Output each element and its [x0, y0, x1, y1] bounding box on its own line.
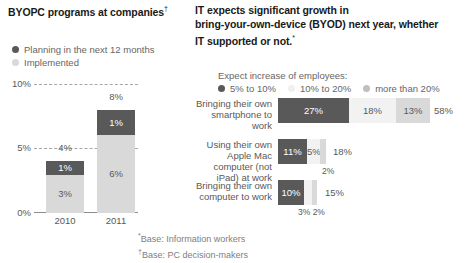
row-label-smartphone-line2: smartphone to work	[211, 109, 272, 131]
x-axis-label-2011: 2011	[97, 215, 135, 226]
right-title-footnote-marker: *	[292, 34, 295, 41]
bar-segment-planning-label-2010: 1%	[46, 163, 84, 173]
byopc-programs-panel: BYOPC programs at companies† Planning in…	[0, 0, 190, 263]
row-label-own-computer-line2: computer to work	[199, 191, 272, 202]
row-label-smartphone-line1: Bringing their own	[196, 98, 272, 109]
bar-segment-implemented-label-2011: 6%	[97, 169, 135, 179]
legend-label-10-to-20: 10% to 20%	[300, 83, 351, 94]
bar-segment-implemented-2010[interactable]: 3%	[46, 175, 84, 213]
row-bar-apple-mac[interactable]: 11%5%	[278, 139, 326, 164]
footnote-2-text: Base: PC decision-makers	[142, 250, 248, 260]
row-label-own-computer: Bringing their own computer to work	[190, 180, 272, 202]
row-segment-more-than-20-own-computer[interactable]	[312, 180, 317, 205]
row-total-smartphone: 58%	[434, 98, 453, 123]
row-label-apple-mac: Using their own Apple Mac computer (not …	[190, 139, 272, 183]
right-chart-title: IT expects significant growth in bring-y…	[195, 4, 463, 48]
bar-segment-implemented-label-2010: 3%	[46, 189, 84, 199]
row-total-apple-mac: 18%	[333, 139, 352, 164]
footnote-2: †Base: PC decision-makers	[138, 246, 248, 262]
row-segment-10-to-20-own-computer[interactable]	[304, 180, 312, 205]
row-segment-5-to-10-apple-mac[interactable]: 11%	[278, 139, 307, 164]
bar-total-label-2011: 8%	[97, 91, 135, 102]
legend-label-5-to-10: 5% to 10%	[230, 83, 276, 94]
y-axis-tick-5: 5%	[5, 142, 31, 153]
y-axis-tick-10: 10%	[5, 78, 31, 89]
bar-segment-planning-label-2011: 1%	[97, 118, 135, 128]
row-bar-smartphone[interactable]: 27%18%13%	[278, 98, 430, 123]
legend-item-5-to-10: 5% to 10%	[218, 83, 276, 94]
bar-segment-planning-2010[interactable]: 1%	[46, 161, 84, 175]
row-label-own-computer-line1: Bringing their own	[196, 180, 272, 191]
legend-item-more-than-20: more than 20%	[363, 83, 439, 94]
row-total-own-computer: 15%	[325, 180, 344, 205]
left-plot-area: 10% 5% 0% 4% 1% 3% 8% 1% 6% 2010 20	[0, 0, 190, 263]
row-segment-more-than-20-smartphone[interactable]: 13%	[396, 98, 430, 123]
row-segment-10-to-20-apple-mac[interactable]: 5%	[307, 139, 320, 164]
legend-item-10-to-20: 10% to 20%	[288, 83, 351, 94]
footnote-1-text: Base: Information workers	[141, 234, 246, 244]
right-title-line2: bring-your-own-device (BYOD) next year, …	[195, 18, 438, 30]
legend-swatch-more-than-20-icon	[363, 85, 370, 92]
byod-growth-panel: IT expects significant growth in bring-y…	[190, 0, 467, 263]
footnote-1: *Base: Information workers	[138, 230, 248, 246]
legend-label-more-than-20: more than 20%	[375, 83, 439, 94]
row-segment-5-to-10-smartphone[interactable]: 27%	[278, 98, 349, 123]
bar-segment-implemented-2011[interactable]: 6%	[97, 135, 135, 213]
x-axis-label-2010: 2010	[46, 215, 84, 226]
row-label-apple-mac-line1: Using their own Apple Mac	[207, 139, 272, 161]
bar-segment-planning-2011[interactable]: 1%	[97, 110, 135, 135]
y-axis-tick-0: 0%	[5, 207, 31, 218]
row-segment-more-than-20-apple-mac[interactable]	[320, 139, 326, 164]
right-title-line3: IT supported or not.	[195, 35, 292, 47]
row-segment-5-to-10-own-computer[interactable]: 10%	[278, 180, 304, 205]
right-legend: 5% to 10%10% to 20%more than 20%	[218, 83, 440, 94]
bar-total-label-2010: 4%	[46, 142, 84, 153]
legend-swatch-10-to-20-icon	[288, 85, 295, 92]
row-below-label-apple-mac: 2%	[322, 166, 334, 176]
right-title-line1: IT expects significant growth in	[195, 4, 349, 16]
row-below-label-own-computer: 3% 2%	[298, 207, 325, 217]
gridline-10	[34, 84, 138, 85]
row-label-smartphone: Bringing their own smartphone to work	[190, 98, 272, 131]
footnotes: *Base: Information workers †Base: PC dec…	[138, 230, 248, 261]
row-bar-own-computer[interactable]: 10%	[278, 180, 317, 205]
row-segment-10-to-20-smartphone[interactable]: 18%	[349, 98, 396, 123]
right-legend-title: Expect increase of employees:	[218, 70, 347, 81]
legend-swatch-5-to-10-icon	[218, 85, 225, 92]
